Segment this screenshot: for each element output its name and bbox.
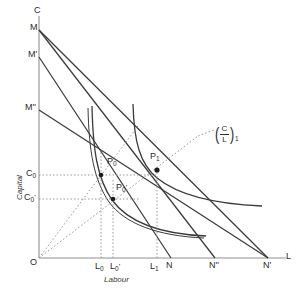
projection-guides [39, 150, 158, 258]
x-tick-label-n-double-prime: N'' [209, 261, 219, 270]
point-label-p0-prime: P0' [116, 183, 127, 194]
x-tick-label-l0-prime: L0' [110, 262, 120, 273]
economics-diagram: C L O Capital Labour M M' M'' C0 C0' L0 … [0, 0, 298, 305]
point-marker-p0-prime [111, 197, 116, 202]
y-axis-tip-label: C [34, 6, 41, 15]
x-tick-label-l0: L0 [95, 262, 104, 273]
ratio-close-paren: ) [230, 124, 234, 145]
p0-prime-mark: ' [126, 183, 128, 192]
l0-subscript: 0 [100, 265, 104, 272]
ratio-numerator: C [220, 125, 229, 133]
isocost-line-MN2 [39, 30, 215, 258]
y-axis-name-label: Capital [16, 175, 24, 200]
ratio-subscript: 1 [235, 135, 239, 142]
ratio-denominator: L [220, 136, 229, 144]
p0-subscript: 0 [113, 160, 117, 167]
diagram-canvas [0, 0, 298, 305]
c0-prime-mark: ' [34, 193, 36, 202]
capital-labour-ratio-annotation: ( C L )1 [214, 124, 239, 145]
ratio-leader-segment [198, 130, 214, 136]
x-tick-label-n: N [166, 261, 173, 270]
y-tick-label-c0: C0 [26, 169, 36, 180]
x-axis-tip-label: L [286, 252, 291, 261]
point-label-p0: P0 [107, 157, 117, 168]
ratio-fraction: C L [220, 125, 229, 145]
x-tick-label-n-prime: N' [263, 261, 271, 270]
x-tick-label-l1: L1 [150, 262, 159, 273]
isoquant-curve-q0-twin [88, 108, 204, 238]
axis-lines [39, 16, 286, 258]
point-label-p1: P1 [150, 152, 160, 163]
l1-subscript: 1 [155, 265, 159, 272]
point-marker-p0 [99, 173, 104, 178]
y-tick-label-m: M [30, 23, 38, 32]
c0-subscript: 0 [33, 172, 37, 179]
p1-subscript: 1 [156, 155, 160, 162]
x-axis-name-label: Labour [104, 276, 129, 284]
y-tick-label-m-double-prime: M'' [25, 103, 36, 112]
y-tick-label-m-prime: M' [28, 50, 37, 59]
ratio-leader-line [198, 130, 214, 136]
ratio-open-paren: ( [215, 124, 219, 145]
y-tick-label-c0-prime: C0' [24, 193, 36, 204]
origin-label: O [30, 258, 37, 267]
l0-prime-mark: ' [119, 262, 121, 271]
point-marker-p1 [154, 167, 159, 172]
isoquant-curve-q0 [92, 106, 206, 236]
